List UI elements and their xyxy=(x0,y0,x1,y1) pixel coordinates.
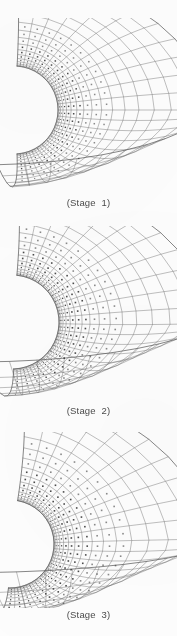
element-integration-point xyxy=(54,518,55,519)
element-integration-point xyxy=(106,493,108,495)
element-integration-point xyxy=(82,354,84,356)
element-integration-point xyxy=(72,578,74,580)
element-integration-point xyxy=(59,566,61,568)
element-integration-point xyxy=(71,155,73,157)
element-integration-point xyxy=(72,97,74,99)
element-integration-point xyxy=(61,523,63,525)
element-integration-point xyxy=(56,339,57,340)
element-integration-point xyxy=(48,358,49,359)
element-integration-point xyxy=(53,285,54,286)
element-integration-point xyxy=(45,583,46,584)
element-integration-point xyxy=(55,463,57,465)
element-integration-point xyxy=(79,113,81,115)
element-integration-point xyxy=(80,265,82,267)
mesh-arc-line xyxy=(0,432,168,605)
element-integration-point xyxy=(29,585,30,586)
element-integration-point xyxy=(17,589,18,590)
element-integration-point xyxy=(70,257,72,259)
element-integration-point xyxy=(38,384,39,385)
element-integration-point xyxy=(87,114,89,116)
element-integration-point xyxy=(58,170,60,172)
element-integration-point xyxy=(52,520,53,521)
element-integration-point xyxy=(33,481,35,483)
element-integration-point xyxy=(88,274,90,276)
element-integration-point xyxy=(74,461,76,463)
element-integration-point xyxy=(55,81,56,82)
element-integration-point xyxy=(39,601,40,602)
element-integration-point xyxy=(58,516,60,518)
element-integration-point xyxy=(82,364,84,366)
element-integration-point xyxy=(78,537,80,539)
mesh-radial-line xyxy=(52,496,177,531)
element-integration-point xyxy=(31,607,32,608)
element-integration-point xyxy=(48,280,49,281)
element-integration-point xyxy=(78,571,80,573)
element-integration-point xyxy=(69,529,71,531)
element-integration-point xyxy=(48,68,49,69)
mesh-arc-line xyxy=(14,272,64,372)
element-integration-point xyxy=(57,282,59,284)
element-integration-point xyxy=(84,309,86,311)
element-integration-point xyxy=(55,293,56,294)
element-integration-point xyxy=(28,390,29,391)
element-integration-point xyxy=(57,125,58,126)
element-integration-point xyxy=(17,590,18,591)
element-integration-point xyxy=(46,495,48,497)
element-integration-point xyxy=(26,155,27,156)
element-integration-point xyxy=(59,113,60,114)
element-integration-point xyxy=(50,369,51,370)
element-integration-point xyxy=(108,534,110,536)
element-integration-point xyxy=(78,494,80,496)
element-integration-point xyxy=(44,284,45,285)
element-integration-point xyxy=(21,56,22,57)
element-integration-point xyxy=(102,307,104,309)
element-integration-point xyxy=(32,503,33,504)
element-integration-point xyxy=(22,47,24,49)
element-integration-point xyxy=(40,231,42,233)
element-integration-point xyxy=(53,82,54,83)
element-integration-point xyxy=(34,178,35,179)
element-integration-point xyxy=(85,554,87,556)
element-integration-point xyxy=(49,596,51,598)
element-integration-point xyxy=(46,160,48,162)
element-integration-point xyxy=(40,278,41,279)
element-integration-point xyxy=(32,151,33,152)
element-integration-point xyxy=(30,367,31,368)
element-integration-point xyxy=(36,475,38,477)
element-integration-point xyxy=(72,319,74,321)
element-integration-point xyxy=(36,495,38,497)
element-integration-point xyxy=(68,379,70,381)
element-integration-point xyxy=(71,136,73,138)
element-integration-point xyxy=(50,143,51,144)
mesh-radial-line xyxy=(58,287,177,311)
element-integration-point xyxy=(78,319,80,321)
element-integration-point xyxy=(47,366,48,367)
element-integration-point xyxy=(66,135,68,137)
element-integration-point xyxy=(75,88,77,90)
element-integration-point xyxy=(28,387,29,388)
element-integration-point xyxy=(46,447,48,449)
element-integration-point xyxy=(71,294,73,296)
element-integration-point xyxy=(11,593,12,594)
element-integration-point xyxy=(62,298,63,299)
element-integration-point xyxy=(49,380,50,381)
element-integration-point xyxy=(67,73,69,75)
element-integration-point xyxy=(39,263,41,265)
element-integration-point xyxy=(61,93,62,94)
element-integration-point xyxy=(106,114,108,116)
mesh-arc-line xyxy=(14,275,59,369)
element-integration-point xyxy=(93,328,95,330)
element-integration-point xyxy=(53,294,54,295)
element-integration-point xyxy=(58,125,59,126)
mesh-arc-line xyxy=(9,233,110,394)
element-integration-point xyxy=(96,573,98,575)
element-integration-point xyxy=(50,351,51,352)
element-integration-point xyxy=(91,84,93,86)
element-integration-point xyxy=(51,83,52,84)
element-integration-point xyxy=(97,545,99,547)
element-integration-point xyxy=(29,454,31,456)
element-integration-point xyxy=(84,503,86,505)
element-integration-point xyxy=(28,269,29,270)
element-integration-point xyxy=(23,587,24,588)
mesh-radial-line xyxy=(47,457,168,520)
